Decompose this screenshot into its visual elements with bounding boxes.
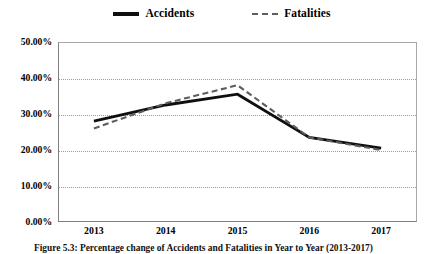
series-line-accidents [94,94,381,148]
figure-caption: Figure 5.3: Percentage change of Acciden… [34,243,434,254]
